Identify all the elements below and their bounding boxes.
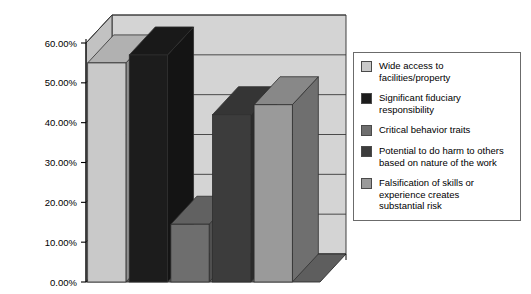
- chart-y-axis-tick-labels: 60.00%50.00%40.00%30.00%20.00%10.00%0.00…: [45, 38, 78, 288]
- y-axis-tick-label: 0.00%: [50, 277, 77, 288]
- legend-item-label: Wide access to facilities/property: [379, 60, 450, 83]
- legend-item-label: Falsification of skills or experience cr…: [379, 177, 474, 212]
- chart-legend: Wide access to facilities/property Signi…: [353, 52, 521, 221]
- legend-item-label: Potential to do harm to others based on …: [379, 145, 504, 168]
- legend-swatch-icon: [361, 93, 372, 104]
- legend-swatch-icon: [361, 61, 372, 72]
- y-axis-tick-label: 10.00%: [45, 237, 78, 248]
- legend-item[interactable]: Significant fiduciary responsibility: [361, 92, 514, 115]
- y-axis-tick-label: 60.00%: [45, 38, 78, 49]
- legend-item[interactable]: Wide access to facilities/property: [361, 60, 514, 83]
- legend-item[interactable]: Critical behavior traits: [361, 124, 514, 136]
- chart-bar: [254, 77, 318, 282]
- y-axis-tick-label: 30.00%: [45, 157, 78, 168]
- chart-3d-bar-chart: 60.00%50.00%40.00%30.00%20.00%10.00%0.00…: [0, 0, 531, 294]
- legend-item-label: Critical behavior traits: [379, 124, 470, 136]
- legend-item[interactable]: Falsification of skills or experience cr…: [361, 177, 514, 212]
- y-axis-tick-label: 50.00%: [45, 77, 78, 88]
- legend-swatch-icon: [361, 178, 372, 189]
- legend-swatch-icon: [361, 125, 372, 136]
- y-axis-tick-label: 20.00%: [45, 197, 78, 208]
- y-axis-tick-label: 40.00%: [45, 117, 78, 128]
- legend-swatch-icon: [361, 146, 372, 157]
- legend-item-label: Significant fiduciary responsibility: [379, 92, 461, 115]
- legend-item[interactable]: Potential to do harm to others based on …: [361, 145, 514, 168]
